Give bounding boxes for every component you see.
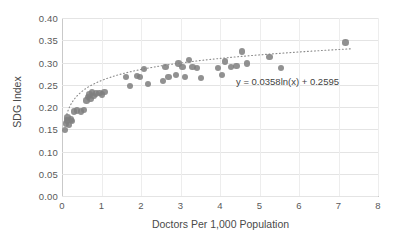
y-axis-tick-label: 0.05: [2, 168, 58, 179]
data-point: [342, 39, 348, 45]
data-point: [179, 64, 185, 70]
data-point: [165, 74, 171, 80]
data-point: [162, 64, 168, 70]
x-axis-tick-label: 1: [87, 200, 117, 211]
x-axis-title: Doctors Per 1,000 Population: [62, 218, 379, 230]
data-point: [239, 48, 245, 54]
gridline-vertical: [378, 18, 379, 196]
y-axis-tick-label: 0.35: [2, 35, 58, 46]
data-point: [244, 60, 250, 66]
x-axis-tick-label: 5: [245, 200, 275, 211]
x-axis-tick-label: 4: [205, 200, 235, 211]
data-point: [173, 72, 179, 78]
data-point: [222, 58, 228, 64]
x-axis-tick-label: 2: [126, 200, 156, 211]
x-axis-tick-label: 8: [363, 200, 393, 211]
y-axis-title: SDG Index: [11, 52, 23, 152]
scatter-chart: 0.000.050.100.150.200.250.300.350.40 012…: [0, 0, 400, 249]
y-axis-tick-label: 0.40: [2, 13, 58, 24]
data-point: [233, 63, 239, 69]
trendline-equation-label: y = 0.0358ln(x) + 0.2595: [236, 76, 339, 87]
x-axis-tick-label: 7: [324, 200, 354, 211]
x-axis-tick-label: 6: [284, 200, 314, 211]
data-point: [266, 54, 272, 60]
data-point: [101, 89, 107, 95]
data-point: [123, 74, 129, 80]
x-axis-tick-label: 0: [47, 200, 77, 211]
plot-area: [62, 18, 378, 196]
y-axis-tick-labels: 0.000.050.100.150.200.250.300.350.40: [0, 0, 58, 249]
trendline: [62, 18, 378, 196]
x-axis-tick-label: 3: [166, 200, 196, 211]
gridline-horizontal: [62, 196, 378, 197]
